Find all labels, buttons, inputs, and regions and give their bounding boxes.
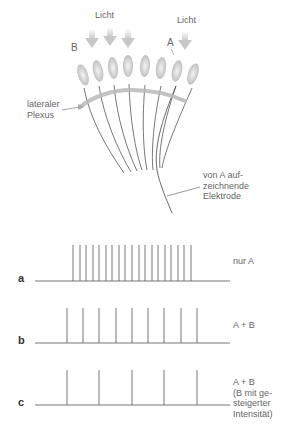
lateral-plexus [80, 90, 185, 107]
label-a: A [167, 38, 174, 49]
ommatidium [107, 57, 119, 80]
arrow-down-icon [121, 29, 135, 48]
electrode [156, 86, 176, 213]
trace-c-caption-line3: steigerter [233, 398, 273, 409]
arrow-down-icon [178, 31, 192, 50]
ommatidium-a [170, 59, 184, 83]
trace-c [35, 370, 230, 405]
trace-a-letter: a [18, 272, 24, 284]
plexus-label-line2: Plexus [27, 110, 60, 121]
arrow-down-icon [85, 29, 99, 48]
label-b: B [71, 43, 78, 54]
trace-a [35, 245, 230, 281]
ommatidium [139, 55, 151, 78]
electrode-pointer [167, 187, 200, 196]
electrode-label-line2: zeichnende [203, 181, 249, 192]
trace-b [35, 308, 230, 343]
trace-c-caption: A + B (B mit ge- steigerter Intensität) [233, 377, 273, 419]
trace-b-letter: b [18, 334, 25, 346]
ommatidium [155, 56, 168, 79]
trace-c-caption-line1: A + B [233, 377, 273, 388]
ommatidium [123, 55, 133, 77]
light-label-left: Licht [95, 10, 114, 21]
ommatidium [91, 59, 105, 83]
electrode-label-line3: Elektrode [203, 191, 249, 202]
ommatidium [185, 62, 201, 86]
electrode-label: von A auf- zeichnende Elektrode [203, 170, 249, 202]
label-a-pointer [171, 49, 174, 55]
trace-c-caption-line4: Intensität) [233, 409, 273, 420]
plexus-label-line1: lateraler [27, 99, 60, 110]
plexus-label: lateraler Plexus [27, 99, 60, 120]
ommatidium [75, 63, 91, 87]
diagram-canvas [0, 0, 286, 435]
light-label-right: Licht [177, 15, 196, 26]
electrode-label-line1: von A auf- [203, 170, 249, 181]
trace-c-letter: c [18, 396, 24, 408]
trace-b-caption: A + B [233, 320, 255, 331]
arrow-down-icon [103, 27, 117, 46]
trace-a-caption: nur A [233, 256, 254, 267]
light-arrows [85, 27, 192, 50]
plexus-pointer [62, 107, 80, 110]
ommatidia [75, 55, 201, 87]
trace-c-caption-line2: (B mit ge- [233, 388, 273, 399]
